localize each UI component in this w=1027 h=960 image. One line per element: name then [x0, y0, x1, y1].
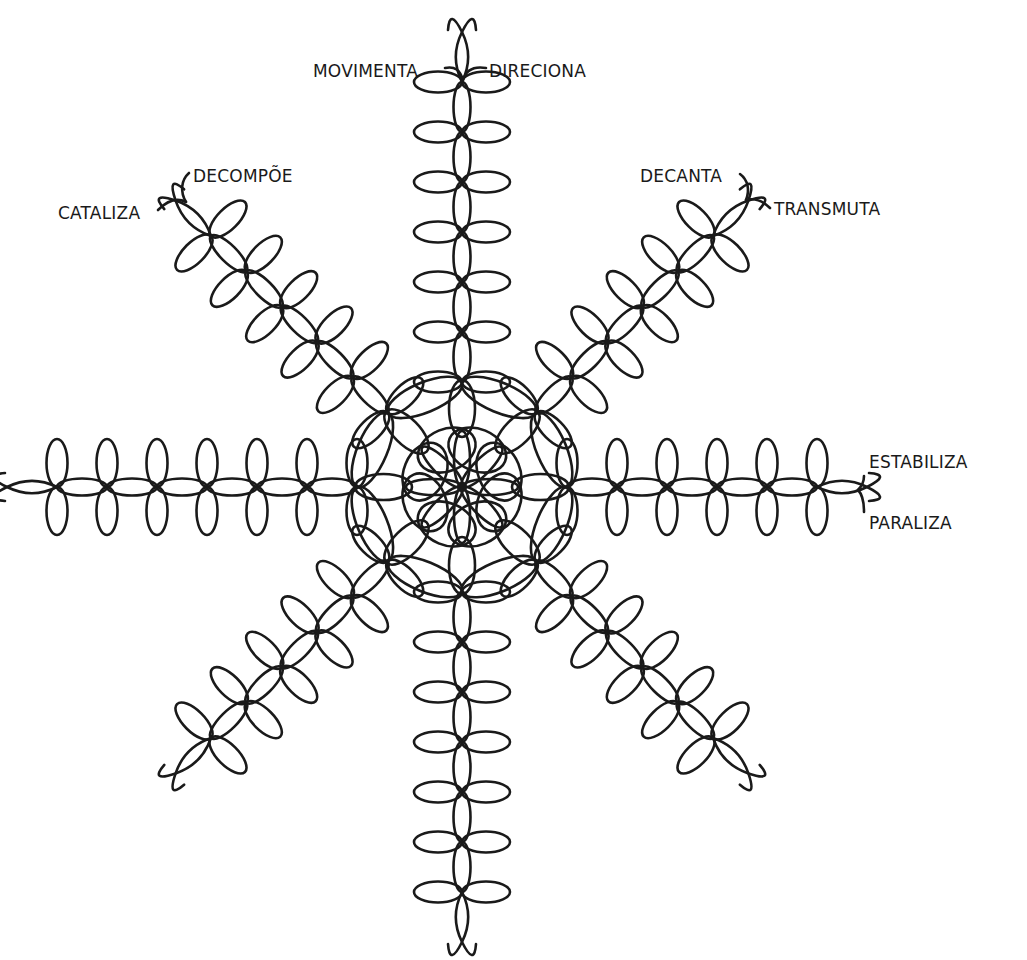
label-decanta: DECANTA	[640, 166, 722, 186]
label-decompoe: DECOMPÕE	[193, 165, 293, 186]
knot-artwork	[0, 19, 880, 955]
ring-lens	[343, 407, 401, 493]
labels: MOVIMENTA DIRECIONA DECOMPÕE CATALIZA DE…	[58, 61, 968, 533]
hub-center-dot	[457, 482, 467, 492]
cross-petal	[414, 72, 462, 93]
arm-down-left	[159, 520, 429, 790]
cross-petal	[47, 439, 68, 487]
ring-lens	[522, 481, 580, 567]
ring-lens	[456, 368, 542, 426]
cross-petal	[807, 487, 828, 535]
label-movimenta: MOVIMENTA	[313, 61, 418, 81]
arm-right	[557, 439, 881, 535]
label-estabiliza: ESTABILIZA	[869, 452, 968, 472]
ring-lens	[382, 547, 468, 605]
central-hub	[394, 419, 530, 555]
label-direciona: DIRECIONA	[489, 61, 586, 81]
cross-petal	[462, 882, 510, 903]
arm-up-right	[495, 184, 765, 454]
label-catalizia: CATALIZA	[58, 203, 140, 223]
paraliza-hook	[858, 490, 864, 512]
ring-lens	[522, 407, 580, 493]
label-paraliza: PARALIZA	[869, 513, 952, 533]
ring-lens	[382, 368, 468, 426]
arm-left	[0, 439, 368, 535]
cross-petal	[807, 439, 828, 487]
decompoe-hook	[182, 173, 189, 202]
arm-down	[414, 582, 510, 956]
arm-down-right	[495, 520, 765, 790]
label-transmuta: TRANSMUTA	[773, 199, 880, 219]
arm-up-left	[159, 184, 429, 454]
cross-petal	[47, 487, 68, 535]
cross-petal	[414, 882, 462, 903]
mandala-diagram: MOVIMENTA DIRECIONA DECOMPÕE CATALIZA DE…	[0, 0, 1027, 960]
ring-lens	[343, 481, 401, 567]
ring-lens	[456, 547, 542, 605]
